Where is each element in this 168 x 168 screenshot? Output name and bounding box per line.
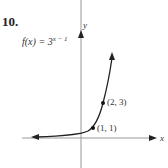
- curve-left-arrow-icon: [31, 134, 39, 140]
- curve-up-arrow-icon: [109, 52, 115, 60]
- x-axis-label: x: [160, 133, 164, 143]
- point-label-1-1: (1, 1): [97, 123, 117, 133]
- y-axis-label: y: [83, 20, 87, 30]
- point-label-2-3: (2, 3): [107, 97, 127, 107]
- point-2-3: [101, 101, 105, 105]
- point-1-1: [91, 126, 95, 130]
- y-axis-arrow-icon: [78, 30, 84, 38]
- x-axis-arrow-icon: [149, 135, 157, 141]
